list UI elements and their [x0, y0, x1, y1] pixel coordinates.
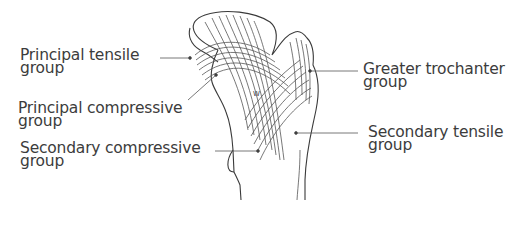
ward-triangle-marker: W [253, 90, 260, 98]
label-secondary-compressive: Secondary compressive group [20, 142, 201, 168]
greater-trochanter-trabeculae [290, 38, 310, 104]
femur-medial-outline [211, 50, 241, 200]
label-principal-compressive: Principal compressive group [18, 102, 182, 128]
leader-principal-compressive [188, 75, 216, 100]
label-principal-tensile: Principal tensile group [20, 49, 139, 75]
label-secondary-tensile: Secondary tensile group [368, 126, 503, 152]
label-greater-trochanter: Greater trochanter group [363, 63, 505, 89]
